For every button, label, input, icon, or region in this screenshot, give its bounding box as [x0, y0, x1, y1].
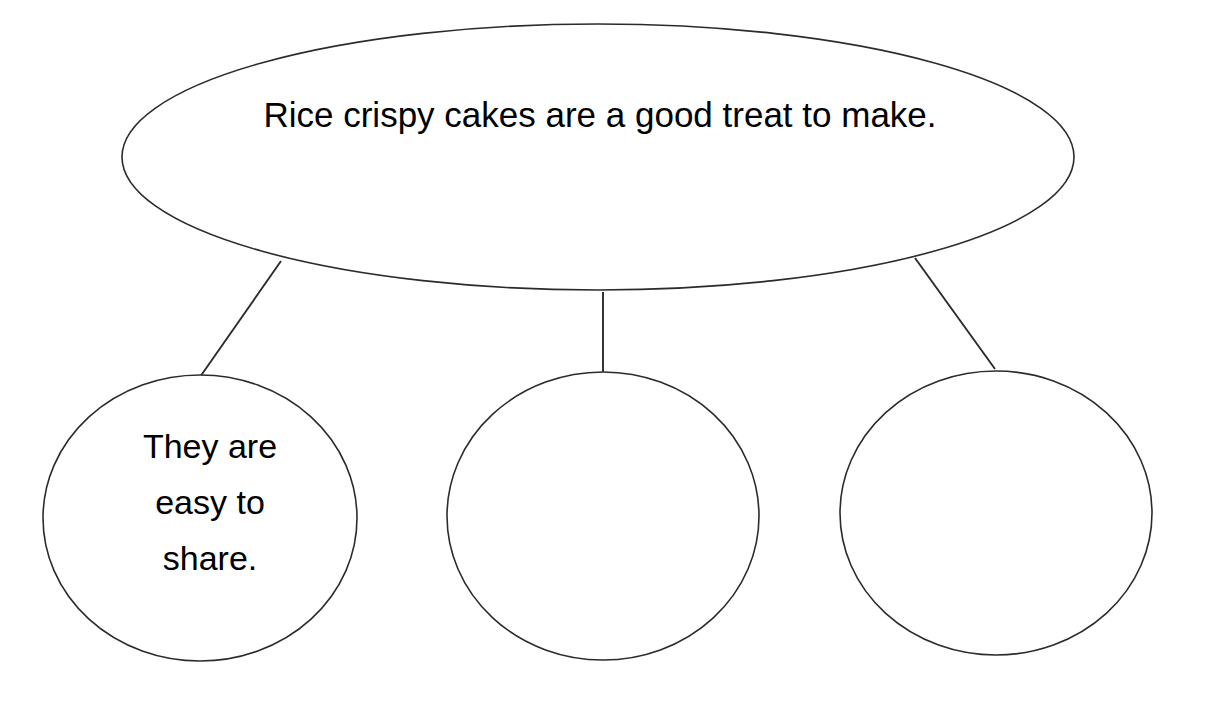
detail-bubble-1[interactable] [43, 375, 357, 661]
detail-bubble-3[interactable] [840, 371, 1152, 655]
graphic-organizer-canvas: Rice crispy cakes are a good treat to ma… [0, 0, 1214, 715]
connector-right-icon [915, 258, 995, 369]
connector-left-icon [200, 261, 281, 377]
detail-bubble-2[interactable] [447, 372, 759, 660]
main-idea-ellipse[interactable] [122, 24, 1074, 290]
organizer-diagram [0, 0, 1214, 715]
